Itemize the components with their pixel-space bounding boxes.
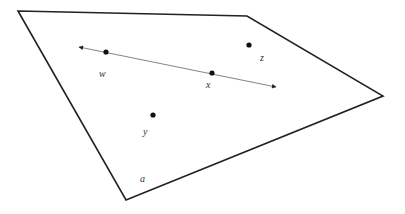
point-dot xyxy=(103,49,108,54)
points-layer: wxzy xyxy=(99,42,264,137)
point-label: w xyxy=(99,68,106,79)
point-dot xyxy=(246,42,251,47)
plane-label-a: a xyxy=(140,173,145,184)
point-dot xyxy=(150,112,155,117)
point-label: x xyxy=(205,79,211,90)
diagram-canvas: wxzy a xyxy=(0,0,405,214)
point-dot xyxy=(209,70,214,75)
point-w: w xyxy=(99,49,109,79)
point-label: z xyxy=(259,52,264,63)
point-x: x xyxy=(205,70,215,90)
point-z: z xyxy=(246,42,264,63)
point-label: y xyxy=(142,126,148,137)
plane-a xyxy=(18,11,383,200)
point-y: y xyxy=(142,112,156,137)
line-through-w-x xyxy=(79,47,276,87)
geometry-diagram: wxzy a xyxy=(0,0,405,214)
